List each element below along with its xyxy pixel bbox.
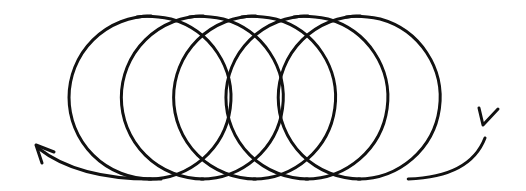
coil-loop-back-arc xyxy=(278,16,360,179)
coil-loop-back-arc xyxy=(69,16,151,179)
coil-loop-front-arc xyxy=(346,16,440,179)
entry-lead-line xyxy=(408,138,485,179)
coil-loop-back-arc xyxy=(121,16,203,179)
coil-svg xyxy=(0,0,526,191)
coil-loop-front-arc xyxy=(242,16,336,179)
coil-loop-front-arc xyxy=(189,16,283,179)
coil-loops xyxy=(69,16,440,179)
coil-diagram xyxy=(0,0,526,191)
coil-loop-front-arc xyxy=(294,16,388,179)
entry-arrowhead-icon xyxy=(479,108,498,125)
coil-loop-front-arc xyxy=(137,16,231,179)
coil-loop-back-arc xyxy=(226,16,308,179)
coil-loop-back-arc xyxy=(174,16,256,179)
